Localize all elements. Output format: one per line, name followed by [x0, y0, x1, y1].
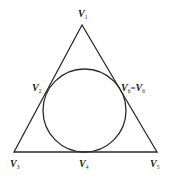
label-v3: V3: [10, 158, 20, 170]
label-v2: V2: [32, 82, 42, 94]
label-v1: V1: [78, 8, 88, 20]
inscribed-circle: [43, 69, 126, 152]
label-v6-equals-v6: V6=V6: [121, 82, 145, 94]
label-v5: V5: [150, 158, 160, 170]
label-v4: V4: [79, 158, 89, 170]
triangle-incircle-diagram: V1 V2 V6=V6 V3 V4 V5: [0, 0, 170, 180]
